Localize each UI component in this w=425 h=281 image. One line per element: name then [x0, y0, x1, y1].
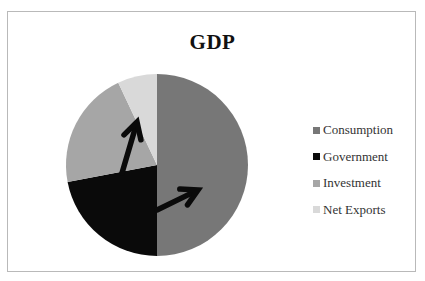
chart-legend: Consumption Government Investment Net Ex…	[313, 117, 413, 223]
legend-swatch-net-exports	[313, 206, 320, 213]
pie-slice-consumption	[157, 74, 248, 256]
legend-label-consumption: Consumption	[323, 122, 393, 138]
legend-item-consumption: Consumption	[313, 117, 413, 144]
legend-swatch-investment	[313, 180, 320, 187]
pie-slices	[66, 74, 248, 256]
legend-label-government: Government	[323, 149, 388, 165]
legend-label-net-exports: Net Exports	[323, 202, 385, 218]
legend-label-investment: Investment	[323, 175, 381, 191]
legend-item-government: Government	[313, 144, 413, 171]
legend-item-investment: Investment	[313, 170, 413, 197]
legend-item-net-exports: Net Exports	[313, 197, 413, 224]
legend-swatch-consumption	[313, 127, 320, 134]
legend-swatch-government	[313, 153, 320, 160]
